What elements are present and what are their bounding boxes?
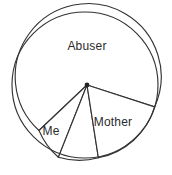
pie-label-abuser: Abuser	[67, 40, 106, 52]
pie-center-dot	[85, 83, 90, 88]
pie-label-mother: Mother	[94, 116, 133, 128]
pie-chart-svg	[0, 0, 172, 175]
pie-label-me: Me	[42, 125, 59, 137]
pie-chart-figure: Abuser Mother Me	[0, 0, 172, 175]
